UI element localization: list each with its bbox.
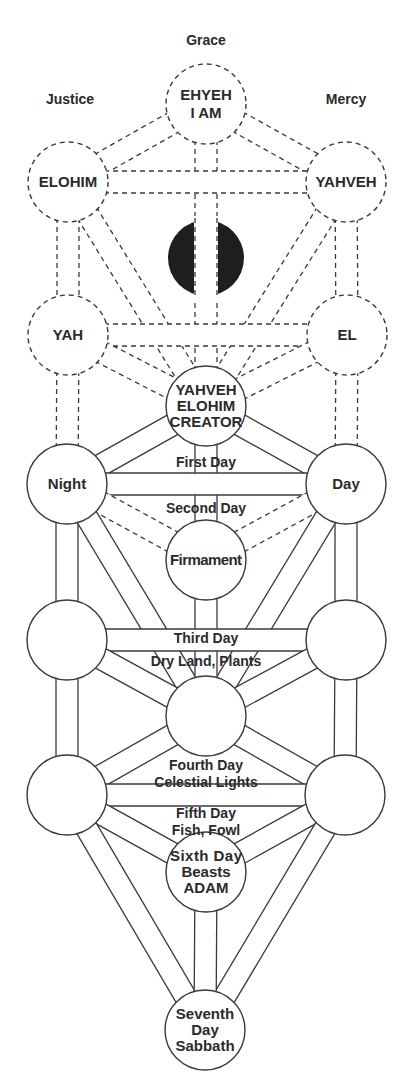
node-label: EHYEH <box>180 86 232 103</box>
node-label: Seventh <box>176 1005 234 1022</box>
node-firmament: Firmament <box>166 520 246 600</box>
node-label: Firmament <box>170 551 242 568</box>
path-label: Dry Land, Plants <box>151 653 262 669</box>
node-label: CREATOR <box>170 413 243 430</box>
node-label: Night <box>48 475 86 492</box>
node-label: Sixth Day <box>170 847 243 864</box>
tree-of-life-diagram: EHYEHI AMELOHIMYAHVEHYAHELYAHVEHELOHIMCR… <box>0 0 411 1086</box>
label-mercy: Mercy <box>326 91 367 107</box>
node-label: Beasts <box>181 863 230 880</box>
path-yah-el <box>68 324 347 346</box>
node-yah: YAH <box>28 295 108 375</box>
node-label: YAHVEH <box>175 381 236 398</box>
node-label: Sabbath <box>175 1037 234 1054</box>
node-label: ELOHIM <box>177 397 235 414</box>
node-right5 <box>305 755 385 835</box>
node-sixth: Sixth DayBeastsADAM <box>166 832 246 912</box>
node-right3 <box>306 600 386 680</box>
node-creator: YAHVEHELOHIMCREATOR <box>166 366 246 446</box>
node-daath <box>166 216 246 300</box>
node-label: YAH <box>53 326 83 343</box>
node-night: Night <box>27 444 107 524</box>
node-el: EL <box>307 295 387 375</box>
node-elohim: ELOHIM <box>28 142 108 222</box>
node-ehyeh: EHYEHI AM <box>166 64 246 144</box>
path-label: Second Day <box>166 500 246 516</box>
path-label: Fish, Fowl <box>172 822 240 838</box>
node-day: Day <box>306 444 386 524</box>
node-seventh: SeventhDaySabbath <box>165 990 245 1070</box>
node-label: ELOHIM <box>39 173 97 190</box>
path-label: Third Day <box>174 630 239 646</box>
node-label: Day <box>332 475 360 492</box>
node-label: I AM <box>190 104 221 121</box>
path-night-day <box>67 473 346 495</box>
path-label: Fifth Day <box>176 805 236 821</box>
label-justice: Justice <box>46 91 94 107</box>
node-left5 <box>27 755 107 835</box>
path-label: First Day <box>176 454 236 470</box>
label-grace: Grace <box>186 32 226 48</box>
path-label: Fourth Day <box>169 757 243 773</box>
node-yahveh: YAHVEH <box>306 142 386 222</box>
path-label: Celestial Lights <box>154 774 258 790</box>
node-label: EL <box>337 326 356 343</box>
node-label: Day <box>191 1021 219 1038</box>
node-label: ADAM <box>184 879 229 896</box>
path-elohim-yahveh <box>68 171 346 193</box>
node-label: YAHVEH <box>315 173 376 190</box>
node-center4 <box>166 676 246 756</box>
node-left3 <box>27 600 107 680</box>
